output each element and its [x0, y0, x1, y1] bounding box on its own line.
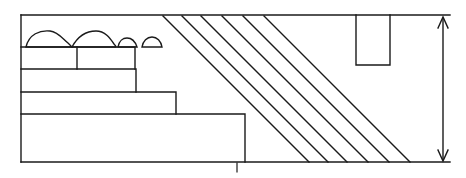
line-drawing-figure [0, 0, 466, 178]
figure-canvas [0, 0, 466, 178]
